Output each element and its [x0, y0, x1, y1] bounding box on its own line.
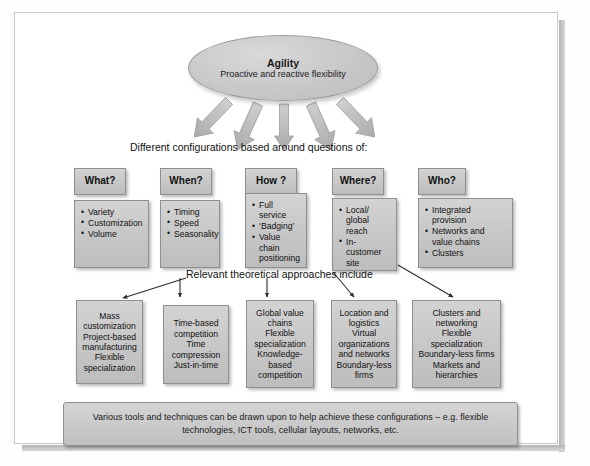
approach-line: Just-in-time	[172, 360, 221, 370]
detail-box-what[interactable]: Variety Customization Volume	[74, 200, 149, 268]
approach-line: Flexible	[82, 352, 136, 362]
approach-line: Time-based	[172, 318, 221, 328]
approach-line: Mass	[82, 311, 136, 321]
question-box-when[interactable]: When?	[160, 168, 212, 195]
approach-box-4[interactable]: Location andlogisticsVirtualorganization…	[331, 300, 397, 388]
approach-line: Time	[172, 339, 221, 349]
approach-lines-2: Time-basedcompetitionTimecompressionJust…	[172, 318, 221, 370]
agility-hub: Agility Proactive and reactive flexibili…	[188, 35, 378, 101]
bullet-list: Local/ global reach In-customer site	[339, 205, 391, 268]
bullet-item: Value chain positioning	[252, 232, 301, 263]
detail-box-when[interactable]: Timing Speed Seasonality	[160, 200, 220, 268]
question-label: What?	[85, 176, 116, 186]
fan-arrow-5	[332, 93, 383, 144]
approach-line: Boundary-less	[337, 360, 392, 370]
bullet-item: Timing	[167, 207, 214, 217]
approach-line: Location and	[337, 308, 392, 318]
approach-box-3[interactable]: Global valuechainsFlexiblespecialization…	[246, 300, 314, 388]
approach-line: Flexible	[419, 328, 495, 338]
bullet-list: Full service ‘Badging’ Value chain posit…	[252, 200, 301, 263]
approach-line: customization	[82, 321, 136, 331]
approach-line: specialization	[82, 363, 136, 373]
detail-box-how[interactable]: Full service ‘Badging’ Value chain posit…	[245, 193, 307, 268]
question-box-what[interactable]: What?	[74, 168, 126, 195]
bullet-list: Integrated provision Networks and value …	[425, 205, 507, 258]
bullet-item: Local/ global reach	[339, 205, 391, 236]
bullet-item: Variety	[81, 207, 143, 217]
approach-line: specialization	[419, 339, 495, 349]
approach-lines-3: Global valuechainsFlexiblespecialization…	[254, 308, 306, 381]
bullet-item: Clusters	[425, 248, 507, 258]
approach-line: firms	[337, 370, 392, 380]
fan-arrow-1	[186, 93, 237, 144]
approach-line: Global value	[254, 308, 306, 318]
approach-line: competition	[172, 329, 221, 339]
bullet-item: Full service	[252, 200, 301, 221]
caption-configurations: Different configurations based around qu…	[130, 141, 367, 153]
agility-title: Agility	[267, 57, 299, 69]
question-label: Who?	[428, 176, 456, 186]
question-label: When?	[169, 176, 202, 186]
approach-line: Flexible	[254, 328, 306, 338]
thin-arrow-left	[123, 278, 186, 298]
approach-box-2[interactable]: Time-basedcompetitionTimecompressionJust…	[163, 305, 229, 384]
summary-banner: Various tools and techniques can be draw…	[63, 402, 518, 446]
bullet-item: Seasonality	[167, 229, 214, 239]
bullet-item: Customization	[81, 218, 143, 228]
bullet-item: Volume	[81, 229, 143, 239]
bullet-item: Networks and value chains	[425, 226, 507, 247]
question-box-who[interactable]: Who?	[418, 168, 466, 195]
bullet-list: Timing Speed Seasonality	[167, 207, 214, 239]
approach-lines-5: Clusters andnetworkingFlexiblespecializa…	[419, 308, 495, 381]
agility-subtitle: Proactive and reactive flexibility	[220, 69, 346, 80]
summary-banner-text: Various tools and techniques can be draw…	[74, 411, 507, 437]
question-label: How ?	[256, 176, 286, 186]
approach-lines-4: Location andlogisticsVirtualorganization…	[337, 308, 392, 381]
approach-line: competition	[254, 370, 306, 380]
approach-line: specialization	[254, 339, 306, 349]
bullet-item: ‘Badging’	[252, 221, 301, 231]
approach-line: and networks	[337, 349, 392, 359]
approach-line: Virtual	[337, 328, 392, 338]
question-box-where[interactable]: Where?	[332, 168, 384, 195]
approach-line: Knowledge-	[254, 349, 306, 359]
bullet-item: In-customer site	[339, 237, 391, 268]
approach-line: Boundary-less firms	[419, 349, 495, 359]
bullet-item: Integrated provision	[425, 205, 507, 226]
thin-arrow-right	[398, 265, 453, 297]
detail-box-where[interactable]: Local/ global reach In-customer site	[332, 198, 397, 271]
approach-line: networking	[419, 318, 495, 328]
approach-line: chains	[254, 318, 306, 328]
approach-line: Clusters and	[419, 308, 495, 318]
approach-box-5[interactable]: Clusters andnetworkingFlexiblespecializa…	[412, 300, 501, 388]
approach-line: Project-based	[82, 332, 136, 342]
question-box-how[interactable]: How ?	[245, 168, 297, 195]
approach-line: manufacturing	[82, 342, 136, 352]
approach-line: based	[254, 360, 306, 370]
approach-box-1[interactable]: MasscustomizationProject-basedmanufactur…	[76, 300, 143, 384]
detail-box-who[interactable]: Integrated provision Networks and value …	[418, 198, 513, 268]
approach-lines-1: MasscustomizationProject-basedmanufactur…	[82, 311, 136, 373]
approach-line: logistics	[337, 318, 392, 328]
bullet-item: Speed	[167, 218, 214, 228]
question-label: Where?	[340, 176, 377, 186]
approach-line: organizations	[337, 339, 392, 349]
approach-line: compression	[172, 350, 221, 360]
approach-line: Markets and	[419, 360, 495, 370]
bullet-list: Variety Customization Volume	[81, 207, 143, 239]
approach-line: hierarchies	[419, 370, 495, 380]
